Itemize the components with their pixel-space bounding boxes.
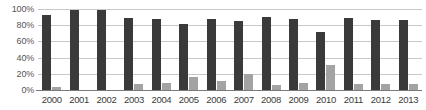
bar-primary	[344, 18, 353, 90]
y-tick-label: 40%	[17, 53, 34, 62]
bar-primary	[262, 17, 271, 90]
bar-primary	[179, 24, 188, 90]
bar-primary	[371, 20, 380, 90]
x-tick-label: 2007	[230, 92, 257, 108]
axis-baseline	[36, 90, 422, 91]
x-tick-label: 2009	[285, 92, 312, 108]
bar-group	[230, 9, 257, 90]
x-tick-label: 2000	[38, 92, 65, 108]
x-tick-label: 2012	[367, 92, 394, 108]
bar-secondary	[299, 83, 308, 90]
bar-secondary	[189, 77, 198, 90]
bar-secondary	[162, 83, 171, 90]
bar-primary	[152, 19, 161, 90]
bar-group	[93, 9, 120, 90]
bar-primary	[97, 10, 106, 90]
plot-area	[38, 9, 422, 90]
bar-secondary	[244, 74, 253, 90]
y-tick-label: 20%	[17, 69, 34, 78]
x-tick-label: 2004	[148, 92, 175, 108]
bar-group	[367, 9, 394, 90]
y-tick-label: 60%	[17, 37, 34, 46]
bar-groups	[38, 9, 422, 90]
bar-group	[38, 9, 65, 90]
bar-group	[203, 9, 230, 90]
x-axis: 2000200120022003200420052006200720082009…	[38, 92, 422, 108]
x-tick-label: 2002	[93, 92, 120, 108]
x-tick-label: 2005	[175, 92, 202, 108]
bar-primary	[399, 20, 408, 90]
bar-secondary	[326, 65, 335, 90]
x-tick-label: 2010	[312, 92, 339, 108]
bar-group	[394, 9, 421, 90]
x-tick-label: 2008	[257, 92, 284, 108]
y-axis: 100%80%60%40%20%0%	[0, 0, 36, 110]
y-tick-label: 80%	[17, 21, 34, 30]
y-tick-label: 100%	[12, 5, 34, 14]
bar-group	[65, 9, 92, 90]
bar-group	[257, 9, 284, 90]
bar-secondary	[217, 81, 226, 90]
bar-primary	[42, 15, 51, 90]
bar-primary	[124, 18, 133, 90]
bar-group	[175, 9, 202, 90]
x-tick-label: 2001	[65, 92, 92, 108]
bar-group	[148, 9, 175, 90]
bar-group	[312, 9, 339, 90]
bar-primary	[234, 21, 243, 90]
x-tick-label: 2013	[394, 92, 421, 108]
bar-group	[285, 9, 312, 90]
bar-group	[120, 9, 147, 90]
bar-primary	[316, 32, 325, 90]
bar-chart: 100%80%60%40%20%0% 200020012002200320042…	[0, 0, 426, 110]
y-tick-label: 0%	[21, 86, 34, 95]
x-tick-label: 2011	[340, 92, 367, 108]
bar-primary	[70, 10, 79, 90]
x-tick-label: 2003	[120, 92, 147, 108]
x-tick-label: 2006	[203, 92, 230, 108]
bar-group	[340, 9, 367, 90]
bar-primary	[207, 19, 216, 90]
bar-primary	[289, 19, 298, 90]
